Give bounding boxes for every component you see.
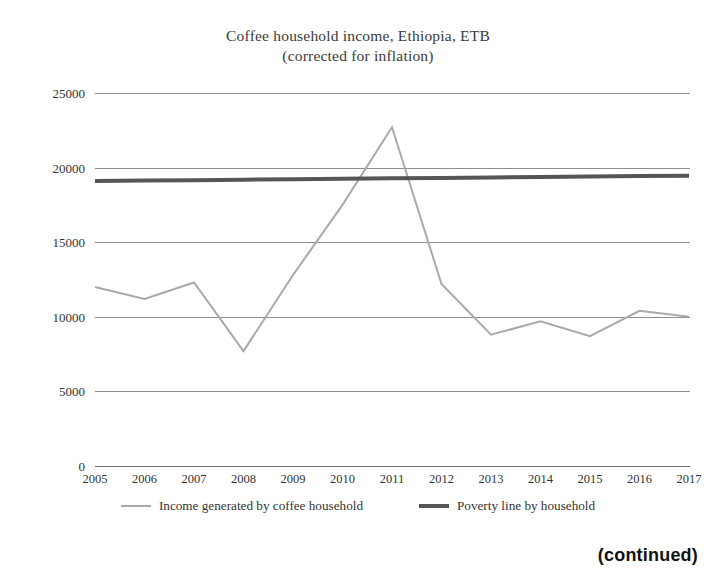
x-tick-label: 2014 [513,472,569,487]
series-line [95,176,689,181]
continued-label: (continued) [598,545,698,566]
x-tick-label: 2010 [315,472,371,487]
x-tick-label: 2016 [612,472,668,487]
chart-subtitle: (corrected for inflation) [0,46,716,66]
series-lines-group [95,93,690,466]
x-tick-label: 2011 [364,472,420,487]
x-tick-label: 2009 [265,472,321,487]
y-tick-label: 20000 [7,162,85,175]
x-tick-label: 2006 [117,472,173,487]
legend-item-income: Income generated by coffee household [121,498,363,514]
income-line-swatch [121,505,151,507]
y-tick-label: 5000 [7,385,85,398]
plot-area [95,93,690,466]
legend-item-poverty: Poverty line by household [419,498,595,514]
x-axis-line [95,466,690,467]
chart-title-block: Coffee household income, Ethiopia, ETB (… [0,26,716,66]
y-tick-label: 25000 [7,87,85,100]
legend-label-poverty: Poverty line by household [457,498,595,514]
chart-legend: Income generated by coffee household Pov… [0,498,716,514]
x-tick-label: 2005 [67,472,123,487]
legend-label-income: Income generated by coffee household [159,498,363,514]
poverty-line-swatch [419,504,449,508]
chart-figure: Coffee household income, Ethiopia, ETB (… [0,0,716,580]
x-tick-label: 2007 [166,472,222,487]
x-tick-label: 2015 [562,472,618,487]
x-tick-label: 2017 [661,472,716,487]
y-tick-label: 15000 [7,236,85,249]
x-tick-label: 2008 [216,472,272,487]
chart-title: Coffee household income, Ethiopia, ETB [226,27,490,44]
series-line [95,127,689,351]
y-tick-label: 10000 [7,311,85,324]
x-tick-label: 2013 [463,472,519,487]
x-tick-label: 2012 [414,472,470,487]
